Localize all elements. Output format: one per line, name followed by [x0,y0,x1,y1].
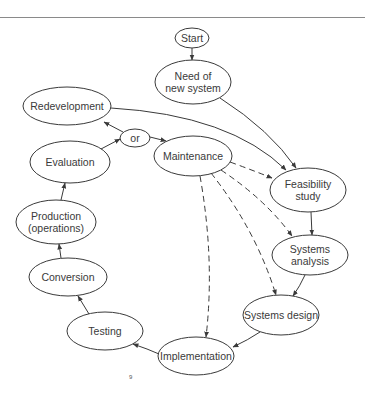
node-label: Need of [175,70,212,82]
node-label: Conversion [41,271,94,283]
node-need: Need ofnew system [155,60,231,104]
node-label: Redevelopment [30,100,104,112]
edge-maintenance-to-design [211,173,276,295]
edge-analysis-to-design [293,275,305,296]
edge-implementation-to-testing [133,344,159,354]
edge-maintenance-to-implementation [200,176,209,337]
node-label: Maintenance [163,150,223,162]
node-conversion: Conversion [29,258,107,296]
node-implementation: Implementation [158,337,234,375]
node-evaluation: Evaluation [30,141,110,183]
edge-or-to-maintenance [150,137,166,141]
node-label: Testing [88,325,121,337]
node-label: Start [181,32,203,44]
edge-production-to-evaluation [61,183,65,200]
node-label: new system [165,82,221,94]
edge-testing-to-conversion [78,296,89,314]
node-maintenance: Maintenance [154,136,232,176]
node-label: Systems design [244,309,318,321]
nodes-layer: StartNeed ofnew systemRedevelopmentorMai… [16,28,348,375]
node-label: Feasibility [285,178,332,190]
edge-feasibility-to-analysis [311,212,312,235]
sdlc-diagram: StartNeed ofnew systemRedevelopmentorMai… [0,0,365,405]
edge-evaluation-to-or [101,139,120,149]
node-label: Systems [290,243,330,255]
edge-conversion-to-production [59,244,61,258]
node-redevelopment: Redevelopment [23,87,111,125]
node-label: Implementation [160,350,232,362]
node-label: Evaluation [45,156,94,168]
node-label: study [295,190,321,202]
node-label: or [130,132,140,144]
node-or: or [120,129,150,147]
node-testing: Testing [67,312,143,350]
node-analysis: Systemsanalysis [272,235,348,275]
page-number: 9 [129,374,132,380]
node-design: Systems design [243,295,319,335]
edge-or-to-redevelopment [104,122,123,132]
node-label: Production [31,210,81,222]
node-feasibility: Feasibilitystudy [270,168,346,212]
node-label: (operations) [28,222,84,234]
edge-design-to-implementation [233,332,260,347]
edge-maintenance-to-feasibility [230,162,272,178]
node-production: Production(operations) [16,200,96,244]
node-start: Start [175,28,209,48]
node-label: analysis [291,255,329,267]
